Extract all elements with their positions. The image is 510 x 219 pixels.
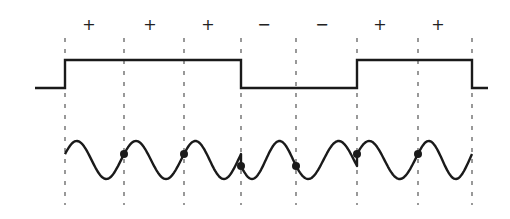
phase-dot	[292, 162, 300, 170]
plus-sign: +	[143, 17, 156, 33]
plus-sign: +	[373, 17, 386, 33]
phase-transition-dots	[120, 150, 422, 170]
phase-dot	[353, 150, 361, 158]
plus-sign: +	[82, 17, 95, 33]
carrier-wave	[65, 141, 472, 179]
bit-boundary-lines	[65, 38, 472, 205]
minus-sign: −	[315, 17, 328, 33]
plus-sign: +	[431, 17, 444, 33]
square-wave	[35, 60, 488, 88]
phase-dot	[120, 150, 128, 158]
plus-sign: +	[201, 17, 214, 33]
phase-dot	[237, 162, 245, 170]
minus-sign: −	[257, 17, 270, 33]
diagram-canvas: +++−−++	[0, 0, 510, 219]
phase-dot	[180, 150, 188, 158]
phase-dot	[414, 150, 422, 158]
